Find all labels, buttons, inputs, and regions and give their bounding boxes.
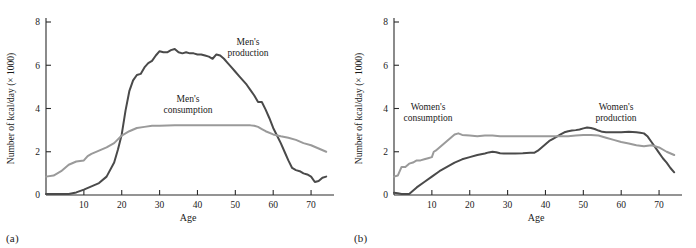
y-tick-label: 0	[383, 190, 388, 200]
chart-b-svg: 0246810203040506070AgeNumber of kcal/day…	[348, 0, 696, 248]
x-tick-label: 60	[268, 200, 278, 210]
x-tick-label: 30	[155, 200, 165, 210]
x-axis-title: Age	[528, 212, 545, 223]
x-tick-label: 50	[579, 200, 589, 210]
y-tick-label: 2	[383, 147, 388, 157]
y-tick-label: 8	[383, 17, 388, 27]
x-tick-label: 10	[427, 200, 437, 210]
x-tick-label: 60	[616, 200, 626, 210]
panel-b-caption: (b)	[354, 232, 367, 244]
chart-panel-a: 0246810203040506070AgeNumber of kcal/day…	[0, 0, 348, 248]
x-axis-title: Age	[180, 212, 197, 223]
y-tick-label: 4	[383, 104, 388, 114]
y-tick-label: 6	[383, 61, 388, 71]
series-line-women-s-production	[394, 128, 674, 194]
y-tick-label: 2	[35, 147, 40, 157]
x-tick-label: 70	[306, 200, 316, 210]
y-axis-title: Number of kcal/day (× 1000)	[6, 53, 17, 164]
y-axis-title: Number of kcal/day (× 1000)	[354, 53, 365, 164]
panel-a-caption: (a)	[6, 232, 19, 244]
x-tick-label: 20	[465, 200, 475, 210]
x-tick-label: 40	[541, 200, 551, 210]
x-tick-label: 30	[503, 200, 513, 210]
y-tick-label: 8	[35, 17, 40, 27]
womens-production-label: Women'sproduction	[595, 102, 636, 123]
chart-a-svg: 0246810203040506070AgeNumber of kcal/day…	[0, 0, 348, 248]
x-tick-label: 10	[79, 200, 89, 210]
x-tick-label: 70	[654, 200, 664, 210]
series-line-men-s-production	[46, 49, 326, 194]
x-tick-label: 20	[117, 200, 127, 210]
mens-production-label: Men'sproduction	[227, 37, 268, 58]
y-tick-label: 4	[35, 104, 40, 114]
y-tick-label: 6	[35, 61, 40, 71]
x-tick-label: 50	[231, 200, 241, 210]
chart-panel-b: 0246810203040506070AgeNumber of kcal/day…	[348, 0, 696, 248]
figure-container: 0246810203040506070AgeNumber of kcal/day…	[0, 0, 696, 248]
x-tick-label: 40	[193, 200, 203, 210]
womens-consumption-label: Women'sconsumption	[403, 102, 452, 123]
series-line-women-s-consumption	[394, 133, 674, 176]
mens-consumption-label: Men'sconsumption	[163, 94, 212, 115]
y-tick-label: 0	[35, 190, 40, 200]
